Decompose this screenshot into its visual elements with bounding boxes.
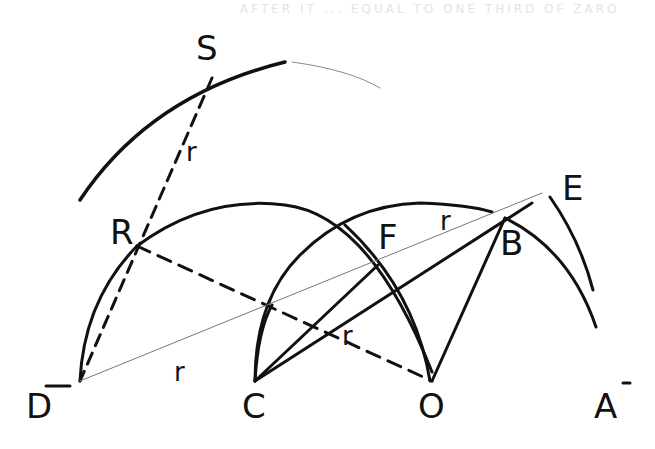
label-r-sr: r [186,137,197,167]
label-r-fb: r [440,206,451,236]
line-c-f [255,265,378,381]
label-s: S [196,28,218,68]
label-r-cf: r [342,321,353,351]
label-e: E [562,168,583,208]
label-f: F [378,217,398,257]
label-r: R [110,212,134,252]
label-o: O [418,386,445,426]
label-b: B [500,223,523,263]
label-c: C [242,386,266,426]
arc-through-s-faint [292,62,380,88]
geometry-diagram: S R F E B D C O A r r r r [0,0,655,449]
label-d: D [26,386,52,426]
label-r-dc: r [174,357,185,387]
arc-through-s [80,62,285,200]
label-a: A [594,386,617,426]
